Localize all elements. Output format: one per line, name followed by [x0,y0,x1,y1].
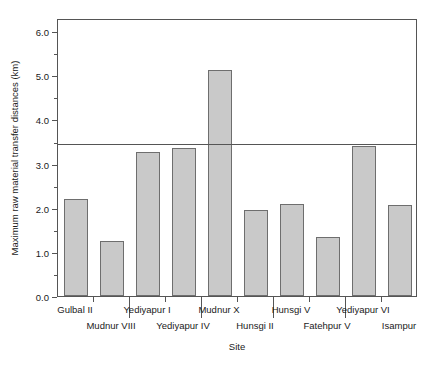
plot-area [57,19,417,297]
bar-yediyapur-i [136,152,159,296]
x-tick-label: Yediyapur I [123,304,170,315]
x-tick [93,297,94,302]
y-tick-label: 3.0 [36,159,49,170]
bar-mudnur-viii [100,241,123,296]
bar-isampur [388,205,411,296]
x-tick-label: Yediyapur VI [336,304,390,315]
bar-mudnur-x [208,70,231,296]
x-tick [237,297,238,302]
bar-hunsgi-v [280,204,303,296]
x-tick [381,297,382,302]
x-axis-title: Site [57,341,417,352]
x-tick-label: Yediyapur IV [156,320,210,331]
bar-fatehpur-v [316,237,339,296]
y-tick-label: 4.0 [36,115,49,126]
y-tick-label: 6.0 [36,27,49,38]
y-tick-label: 0.0 [36,292,49,303]
x-tick [165,297,166,302]
x-tick-label: Mudnur X [198,304,239,315]
bar-yediyapur-iv [172,148,195,296]
x-tick-label: Hunsgi V [272,304,311,315]
y-tick-label: 2.0 [36,203,49,214]
x-tick-label: Isampur [382,320,416,331]
x-tick-label: Mudnur VIII [86,320,135,331]
bar-yediyapur-vi [352,146,375,296]
x-tick-label: Gulbal II [57,304,92,315]
x-tick-label: Fatehpur V [304,320,351,331]
y-axis: 0.01.02.03.04.05.06.0 [0,19,57,297]
x-tick-label: Hunsgi II [236,320,274,331]
bar-chart-figure: Maximum raw material transfer distances … [0,0,435,371]
y-tick-label: 5.0 [36,71,49,82]
bars-layer [58,20,416,296]
x-tick [309,297,310,302]
plot-inner [58,20,416,296]
y-tick-label: 1.0 [36,247,49,258]
bar-gulbal-ii [64,199,87,296]
reference-line [58,144,416,145]
bar-hunsgi-ii [244,210,267,296]
